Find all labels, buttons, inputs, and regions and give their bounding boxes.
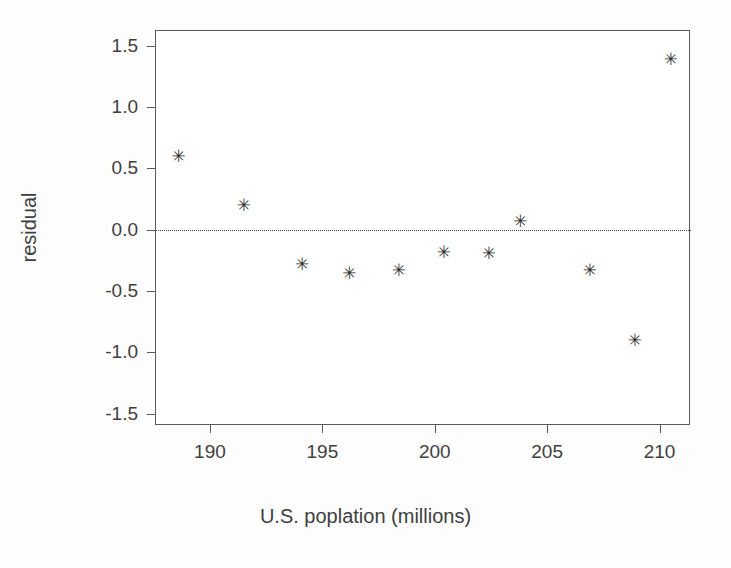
data-point: ✳ <box>513 214 527 228</box>
x-tick-label: 200 <box>419 441 451 463</box>
data-point: ✳ <box>583 263 597 277</box>
residual-plot-figure: ✳✳✳✳✳✳✳✳✳✳✳ 1.51.00.50.0-0.5-1.0-1.5 190… <box>0 0 731 568</box>
data-point: ✳ <box>171 149 185 163</box>
data-point: ✳ <box>664 52 678 66</box>
plot-frame: ✳✳✳✳✳✳✳✳✳✳✳ 1.51.00.50.0-0.5-1.0-1.5 190… <box>155 30 690 425</box>
data-point: ✳ <box>342 266 356 280</box>
data-point: ✳ <box>392 263 406 277</box>
y-tick-label: 1.5 <box>112 35 138 57</box>
y-tick-mark <box>147 230 156 231</box>
plot-area: ✳✳✳✳✳✳✳✳✳✳✳ <box>156 31 689 424</box>
zero-reference-line <box>156 230 691 231</box>
x-tick-mark <box>322 424 323 433</box>
y-tick-mark <box>147 168 156 169</box>
data-point: ✳ <box>237 198 251 212</box>
x-tick-mark <box>660 424 661 433</box>
data-point: ✳ <box>628 333 642 347</box>
y-tick-mark <box>147 46 156 47</box>
data-point: ✳ <box>482 246 496 260</box>
x-tick-mark <box>435 424 436 433</box>
x-tick-label: 195 <box>306 441 338 463</box>
x-tick-label: 190 <box>194 441 226 463</box>
y-tick-label: 0.0 <box>112 219 138 241</box>
y-tick-mark <box>147 352 156 353</box>
x-tick-mark <box>210 424 211 433</box>
data-point: ✳ <box>295 257 309 271</box>
y-tick-label: -1.5 <box>105 403 138 425</box>
x-tick-label: 205 <box>531 441 563 463</box>
y-tick-label: -1.0 <box>105 341 138 363</box>
y-tick-label: -0.5 <box>105 280 138 302</box>
x-tick-mark <box>547 424 548 433</box>
x-tick-label: 210 <box>644 441 676 463</box>
y-tick-mark <box>147 291 156 292</box>
data-point: ✳ <box>437 245 451 259</box>
y-tick-label: 1.0 <box>112 96 138 118</box>
y-tick-mark <box>147 107 156 108</box>
y-tick-label: 0.5 <box>112 157 138 179</box>
x-axis-label: U.S. poplation (millions) <box>0 505 731 528</box>
y-axis-label: residual <box>14 30 44 425</box>
y-tick-mark <box>147 414 156 415</box>
